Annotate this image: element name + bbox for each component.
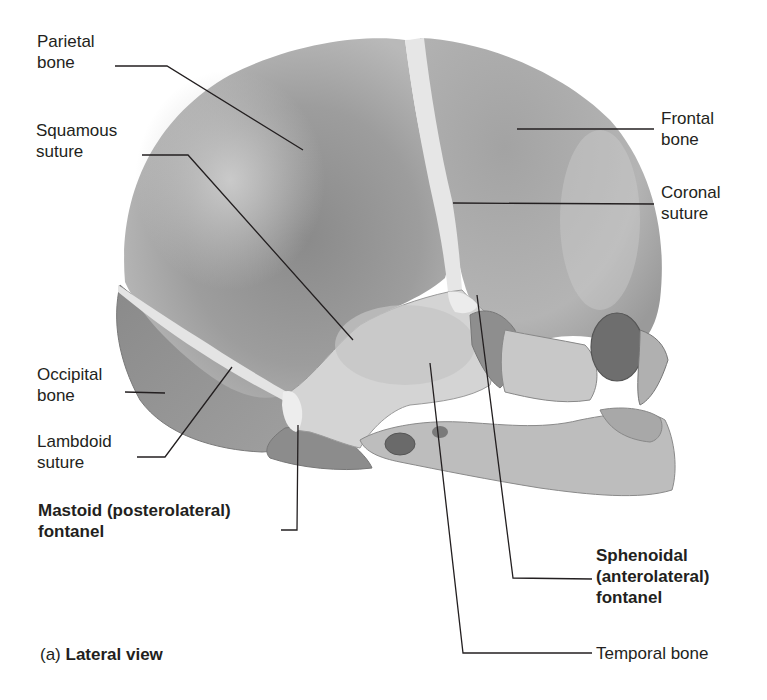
label-squamous-suture: Squamous suture	[36, 120, 117, 162]
fetal-skull-figure: Parietal bone Squamous suture Frontal bo…	[0, 0, 767, 700]
label-occipital-bone: Occipital bone	[37, 364, 102, 406]
caption-title: Lateral view	[66, 645, 163, 664]
orbit-shape	[591, 313, 643, 381]
label-coronal-suture: Coronal suture	[661, 182, 721, 224]
leader-temporal	[430, 363, 592, 653]
label-mastoid-fontanel: Mastoid (posterolateral) fontanel	[38, 500, 231, 542]
label-lambdoid-suture: Lambdoid suture	[37, 431, 112, 473]
label-temporal-bone: Temporal bone	[596, 643, 708, 664]
label-frontal-bone: Frontal bone	[661, 108, 714, 150]
label-sphenoidal-fontanel: Sphenoidal (anterolateral) fontanel	[596, 545, 709, 608]
caption-prefix: (a)	[40, 645, 66, 664]
label-parietal-bone: Parietal bone	[37, 31, 95, 73]
figure-caption: (a) Lateral view	[40, 645, 163, 665]
